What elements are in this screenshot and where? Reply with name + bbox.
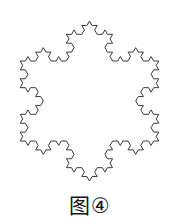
- figure-caption: 图 ④: [0, 188, 179, 224]
- koch-snowflake-svg: [0, 0, 179, 188]
- fractal-illustration: [0, 0, 179, 188]
- caption-label: 图: [69, 196, 90, 217]
- svg-background: [0, 0, 179, 188]
- figure-container: 图 ④: [0, 0, 179, 224]
- caption-number: ④: [91, 196, 110, 217]
